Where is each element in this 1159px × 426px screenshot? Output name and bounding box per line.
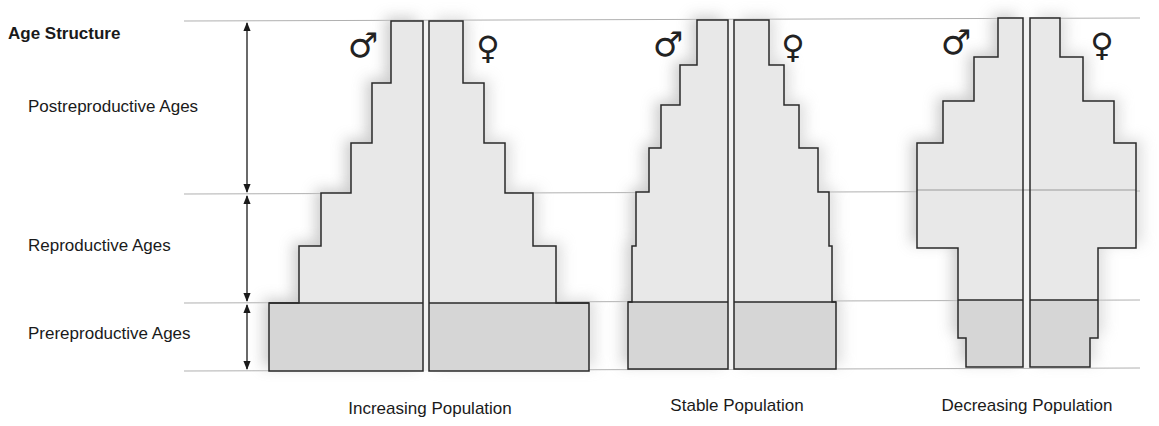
female-symbol-icon: ♀: [781, 28, 804, 66]
male-symbol-icon: ♂: [653, 24, 683, 64]
female-symbol-icon: ♀: [1090, 26, 1113, 64]
male-symbol-icon: ♂: [941, 22, 971, 62]
female-symbol-icon: ♀: [476, 29, 499, 67]
label-decreasing-population: Decreasing Population: [941, 396, 1112, 416]
label-increasing-population: Increasing Population: [348, 399, 512, 419]
male-symbol-icon: ♂: [348, 25, 378, 65]
label-stable-population: Stable Population: [670, 396, 803, 416]
age-pyramids-diagram: ♂♀♂♀♂♀: [0, 0, 1159, 426]
